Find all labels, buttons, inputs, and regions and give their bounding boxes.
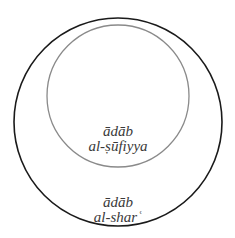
inner-label-line2: al-ṣūfiyya — [88, 138, 147, 154]
outer-label-line1: ādāb — [103, 194, 134, 210]
inner-label-line1: ādāb — [103, 123, 134, 139]
outer-label-line2: al-sharʿ — [94, 209, 142, 225]
nested-circles-diagram: ādāb al-ṣūfiyya ādāb al-sharʿ — [0, 0, 235, 238]
